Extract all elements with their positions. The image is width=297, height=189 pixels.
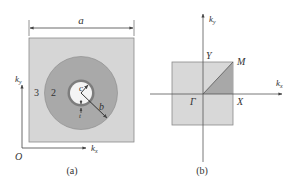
- panel-a-caption: (a): [66, 165, 77, 177]
- point-y-label: Y: [206, 50, 213, 61]
- lattice-constant-label: a: [78, 14, 84, 26]
- kx-axis-label: kx: [91, 143, 98, 154]
- region-3-label: 3: [34, 87, 39, 98]
- panel-a: a c b t 3 2 ky kx O (a): [15, 14, 134, 177]
- outer-radius-label: b: [99, 101, 104, 112]
- point-x-label: X: [236, 96, 244, 107]
- panel-b: ky kx Y M Γ X (b): [150, 14, 283, 177]
- point-m-label: M: [236, 56, 246, 67]
- point-gamma-label: Γ: [189, 96, 196, 107]
- phononic-crystal-figure: a c b t 3 2 ky kx O (a) ky: [0, 0, 297, 189]
- kx-axis-label-b: kx: [276, 78, 283, 89]
- origin-label: O: [15, 151, 22, 162]
- panel-b-caption: (b): [196, 165, 208, 177]
- ky-axis-label: ky: [15, 74, 22, 85]
- region-2-label: 2: [51, 87, 56, 98]
- ky-axis-label-b: ky: [209, 14, 216, 25]
- inner-radius-label: c: [79, 83, 83, 93]
